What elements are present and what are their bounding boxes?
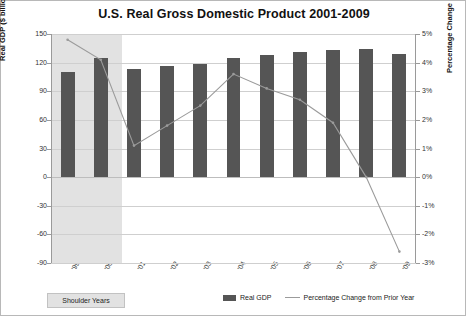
bar-swatch-icon <box>223 295 236 301</box>
chart-container: U.S. Real Gross Domestic Product 2001-20… <box>0 0 466 316</box>
line-path <box>68 40 400 252</box>
y-tick-mark-right <box>416 206 420 207</box>
legend-item-percentage-change: Percentage Change from Prior Year <box>285 294 415 301</box>
y-tick-label-right: -3% <box>422 259 448 266</box>
y-tick-mark-right <box>416 149 420 150</box>
y-tick-label-right: 0% <box>422 173 448 180</box>
chart-legend: Real GDP Percentage Change from Prior Ye… <box>223 294 414 301</box>
legend-item-real-gdp: Real GDP <box>223 294 272 301</box>
shoulder-years-legend-box: Shoulder Years <box>47 293 125 308</box>
plot-area <box>51 34 416 263</box>
y-tick-label-left: -30 <box>17 202 47 209</box>
y-tick-mark-right <box>416 63 420 64</box>
y-tick-label-right: 5% <box>422 30 448 37</box>
line-data-point <box>332 121 335 124</box>
y-tick-mark-right <box>416 234 420 235</box>
line-data-point <box>199 104 202 107</box>
y-tick-label-left: 150 <box>17 30 47 37</box>
legend-label-percentage-change: Percentage Change from Prior Year <box>304 294 415 301</box>
y-axis-label-left: Real GDP ($ billions, in 2005 dollars) <box>0 0 7 71</box>
shoulder-years-label: Shoulder Years <box>62 297 109 304</box>
line-data-point <box>166 124 169 127</box>
y-tick-label-left: 30 <box>17 145 47 152</box>
y-tick-label-left: 0 <box>17 173 47 180</box>
line-data-point <box>265 87 268 90</box>
y-tick-mark-right <box>416 34 420 35</box>
y-tick-label-right: -2% <box>422 230 448 237</box>
legend-label-real-gdp: Real GDP <box>240 294 272 301</box>
y-axis-label-right: Percentage Change <box>445 0 454 93</box>
line-data-point <box>66 38 69 41</box>
y-tick-label-left: -90 <box>17 259 47 266</box>
line-swatch-icon <box>285 297 300 298</box>
line-data-point <box>398 250 401 253</box>
y-tick-label-right: 2% <box>422 116 448 123</box>
y-tick-label-right: -1% <box>422 202 448 209</box>
y-tick-label-right: 4% <box>422 59 448 66</box>
chart-title: U.S. Real Gross Domestic Product 2001-20… <box>1 7 466 21</box>
line-data-point <box>299 99 302 102</box>
y-tick-mark-right <box>416 120 420 121</box>
line-data-point <box>133 144 136 147</box>
y-tick-label-left: 120 <box>17 59 47 66</box>
y-tick-label-left: -60 <box>17 230 47 237</box>
line-data-point <box>100 59 103 62</box>
line-data-point <box>232 73 235 76</box>
y-tick-label-right: 1% <box>422 145 448 152</box>
y-tick-label-left: 90 <box>17 87 47 94</box>
gridline <box>51 263 416 264</box>
line-series-percentage-change <box>51 34 416 263</box>
y-tick-mark-right <box>416 263 420 264</box>
y-tick-mark-right <box>416 91 420 92</box>
line-data-point <box>365 176 368 179</box>
y-tick-label-right: 3% <box>422 87 448 94</box>
y-tick-mark-right <box>416 177 420 178</box>
y-tick-label-left: 60 <box>17 116 47 123</box>
